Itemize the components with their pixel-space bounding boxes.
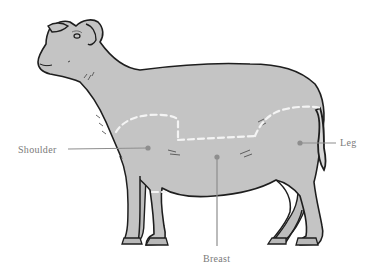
label-breast: Breast: [203, 253, 230, 264]
sheep-cuts-diagram: Shoulder Leg Breast: [0, 0, 377, 276]
sheep-illustration: [0, 0, 377, 276]
sheep-body: [38, 20, 324, 245]
label-leg: Leg: [340, 137, 356, 148]
label-shoulder: Shoulder: [18, 144, 57, 155]
